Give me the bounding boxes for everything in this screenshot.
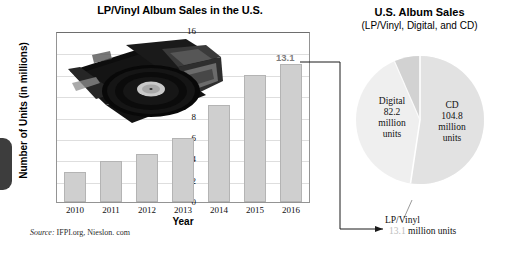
lpvinyl-unit: million units <box>408 226 456 236</box>
pie-chart-title: U.S. Album Sales <box>330 6 509 18</box>
lpvinyl-callout-value: 13.1 million units <box>389 226 456 236</box>
pie-slice-label-digital: Digital 82.2 million units <box>366 96 418 140</box>
pie-slice-label-cd: CD 104.8 million units <box>428 100 476 144</box>
left-edge-artifact <box>0 138 12 190</box>
pie-chart-subtitle: (LP/Vinyl, Digital, and CD) <box>330 20 509 31</box>
lpvinyl-value: 13.1 <box>389 226 406 236</box>
pie-slice-label-lpvinyl: LP/Vinyl <box>385 215 420 225</box>
